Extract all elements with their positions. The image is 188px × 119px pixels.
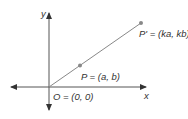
point-p: [78, 64, 82, 68]
point-p-label: P = (a, b): [81, 72, 120, 82]
point-p-prime-label: P' = (ka, kb): [139, 29, 188, 39]
x-axis-label: x: [144, 91, 149, 101]
coordinate-diagram: [0, 0, 188, 119]
y-axis-label: y: [41, 9, 46, 19]
origin-label: O = (0, 0): [53, 92, 93, 102]
point-p-prime: [139, 21, 143, 25]
